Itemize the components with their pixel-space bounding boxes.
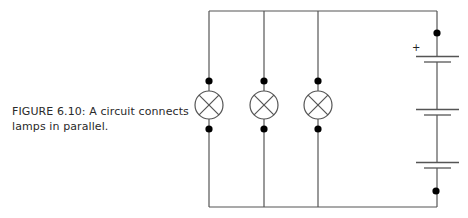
positive-terminal-label: + [412,42,420,53]
battery-cell-icon [416,57,459,63]
junction-dot-icon [260,77,267,84]
junction-dot-icon [314,77,321,84]
junction-dot-icon [205,77,212,84]
circuit-diagram: + [0,0,468,218]
battery: + [412,29,459,194]
junction-dot-icon [314,125,321,132]
junction-dot-icon [260,125,267,132]
battery-cell-icon [416,163,459,169]
junction-dot-icon [433,29,440,36]
junction-dot-icon [432,187,439,194]
junction-dot-icon [205,125,212,132]
battery-cell-icon [416,110,459,116]
